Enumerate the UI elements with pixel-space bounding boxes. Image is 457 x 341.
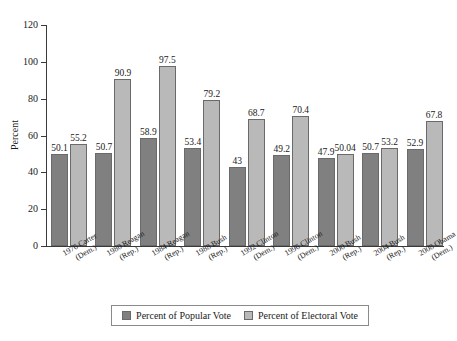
bar-value-label: 55.2	[70, 133, 87, 143]
bar-group: 50.753.2	[358, 25, 402, 246]
bar-electoral	[337, 154, 354, 246]
bar-value-label: 47.9	[318, 147, 335, 157]
bar-value-label: 90.9	[115, 68, 132, 78]
bar-value-label: 43	[233, 156, 243, 166]
bar-electoral	[70, 144, 87, 246]
bar-electoral	[381, 148, 398, 246]
x-label-cell: 1980 Reagan(Rep.)	[91, 248, 135, 300]
legend-label-electoral: Percent of Electoral Vote	[258, 310, 358, 321]
plot-area: 50.155.250.790.958.997.553.479.24368.749…	[47, 25, 447, 246]
legend-swatch-electoral-icon	[244, 311, 253, 320]
bar-electoral	[203, 100, 220, 246]
bar-value-label: 68.7	[248, 108, 265, 118]
bar-value-label: 50.1	[51, 143, 68, 153]
bar-value-label: 52.9	[407, 138, 424, 148]
y-axis-title-text: Percent	[9, 120, 20, 150]
x-label-cell: 1976 Carter(Dem.)	[47, 248, 91, 300]
y-tick-label: 80	[28, 94, 38, 104]
legend: Percent of Popular Vote Percent of Elect…	[111, 305, 369, 326]
bar-popular	[140, 138, 157, 246]
x-label-cell: 1996 Clinton(Dem.)	[269, 248, 313, 300]
bar-group: 49.270.4	[269, 25, 313, 246]
bar-value-label: 67.8	[426, 110, 443, 120]
legend-item-electoral: Percent of Electoral Vote	[244, 310, 358, 321]
y-tick-label: 100	[23, 57, 38, 67]
bar-popular	[229, 167, 246, 246]
x-label-cell: 1988 Bush(Rep.)	[180, 248, 224, 300]
bar-value-label: 58.9	[140, 127, 157, 137]
bar-group: 52.967.8	[403, 25, 447, 246]
y-tick-mark	[41, 246, 47, 247]
bar-group: 53.479.2	[180, 25, 224, 246]
y-tick-label: 60	[28, 131, 38, 141]
bar-value-label: 53.2	[381, 137, 398, 147]
x-axis-labels: 1976 Carter(Dem.)1980 Reagan(Rep.)1984 R…	[47, 248, 447, 300]
bar-electoral	[159, 66, 176, 246]
bar-popular	[407, 149, 424, 246]
x-label-cell: 1992 Clinton(Dem.)	[225, 248, 269, 300]
y-tick-label: 40	[28, 167, 38, 177]
bar-group: 58.997.5	[136, 25, 180, 246]
bar-popular	[362, 153, 379, 246]
bar-group: 50.155.2	[47, 25, 91, 246]
bar-value-label: 50.7	[362, 142, 379, 152]
x-label-cell: 1984 Reagan(Rep.)	[136, 248, 180, 300]
bar-value-label: 70.4	[292, 105, 309, 115]
bar-electoral	[248, 119, 265, 246]
x-label-cell: 2008 Obama(Dem.)	[403, 248, 447, 300]
bar-popular	[51, 154, 68, 246]
legend-swatch-popular-icon	[122, 311, 131, 320]
bar-electoral	[292, 116, 309, 246]
bar-electoral	[426, 121, 443, 246]
bar-electoral	[114, 79, 131, 246]
x-label-cell: 2004 Bush(Rep.)	[358, 248, 402, 300]
legend-label-popular: Percent of Popular Vote	[136, 310, 231, 321]
bar-value-label: 50.7	[96, 142, 113, 152]
bar-groups: 50.155.250.790.958.997.553.479.24368.749…	[47, 25, 447, 246]
y-tick-label: 120	[23, 20, 38, 30]
bar-value-label: 50.04	[334, 143, 355, 153]
x-label-cell: 2000 Bush(Rep.)	[314, 248, 358, 300]
y-tick-label: 0	[33, 241, 38, 251]
legend-item-popular: Percent of Popular Vote	[122, 310, 231, 321]
bar-value-label: 49.2	[273, 144, 290, 154]
bar-group: 4368.7	[225, 25, 269, 246]
y-tick-label: 20	[28, 204, 38, 214]
bar-value-label: 53.4	[185, 137, 202, 147]
y-axis-title: Percent	[8, 105, 20, 165]
bar-group: 50.790.9	[91, 25, 135, 246]
bar-group: 47.950.04	[314, 25, 358, 246]
bar-chart: Percent 020406080100120 50.155.250.790.9…	[0, 0, 457, 341]
bar-value-label: 79.2	[204, 89, 221, 99]
bar-popular	[95, 153, 112, 246]
bar-value-label: 97.5	[159, 55, 176, 65]
